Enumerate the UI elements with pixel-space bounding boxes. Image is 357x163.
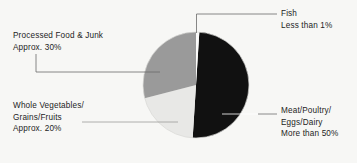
- pie-label-meat-name-1: Meat/Poultry/: [281, 105, 338, 117]
- pie-label-vegetables-name-1: Whole Vegetables/: [13, 100, 84, 112]
- pie-label-fish: Fish Less than 1%: [281, 8, 332, 31]
- pie-label-vegetables: Whole Vegetables/ Grains/Fruits Approx. …: [13, 100, 84, 135]
- pie-label-processed: Processed Food & Junk Approx. 30%: [13, 30, 103, 53]
- pie-label-meat-value: More than 50%: [281, 128, 338, 140]
- pie-label-meat: Meat/Poultry/ Eggs/Dairy More than 50%: [281, 105, 338, 140]
- pie-label-meat-name-2: Eggs/Dairy: [281, 117, 338, 129]
- leader-line-fish: [197, 14, 278, 33]
- pie-label-vegetables-name-2: Grains/Fruits: [13, 112, 84, 124]
- pie-chart-figure: Fish Less than 1% Processed Food & Junk …: [0, 0, 357, 163]
- leader-line-processed: [36, 54, 160, 72]
- pie-slice-meat[interactable]: [193, 32, 249, 138]
- pie-label-processed-name: Processed Food & Junk: [13, 30, 103, 42]
- pie-label-fish-name: Fish: [281, 8, 332, 20]
- pie-label-processed-value: Approx. 30%: [13, 42, 103, 54]
- pie-label-fish-value: Less than 1%: [281, 20, 332, 32]
- pie-label-vegetables-value: Approx. 20%: [13, 123, 84, 135]
